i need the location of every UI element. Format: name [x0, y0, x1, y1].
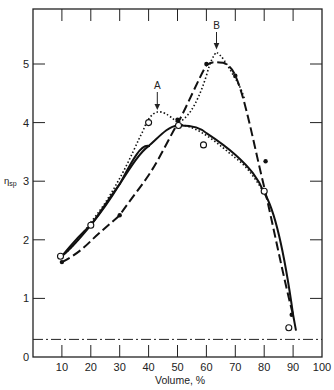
- y-tick-label: 1: [23, 292, 29, 304]
- y-tick-labels: 0 1 2 3 4 5: [23, 58, 29, 363]
- y-tick-label: 3: [23, 175, 29, 187]
- open-circle-marker: [201, 142, 207, 148]
- x-tick-label: 90: [287, 361, 299, 373]
- x-tick-labels: 10 20 30 40 50 60 70 80 90 100: [56, 361, 331, 373]
- filled-circle-marker: [60, 260, 64, 264]
- filled-circle-marker: [175, 118, 179, 122]
- y-axis-title-sub: sp: [9, 180, 17, 188]
- filled-circle-marker: [118, 213, 122, 217]
- x-axis-title: Volume, %: [155, 374, 205, 386]
- filled-circle-markers: [60, 62, 294, 317]
- open-circle-marker: [286, 325, 292, 331]
- x-tick-label: 30: [114, 361, 126, 373]
- y-axis-title: ηsp: [4, 175, 17, 188]
- y-tick-label: 2: [23, 234, 29, 246]
- x-ticks-bottom: [62, 345, 293, 357]
- annotation-b-label: B: [213, 20, 220, 31]
- filled-circle-marker: [290, 313, 294, 317]
- y-tick-label: 4: [23, 117, 29, 129]
- chart: 0 1 2 3 4 5 10 20 30 40 50 60 70 80 90 1…: [0, 0, 334, 390]
- x-tick-label: 60: [200, 361, 212, 373]
- x-tick-label: 100: [313, 361, 331, 373]
- open-circle-marker: [176, 123, 182, 129]
- x-tick-label: 80: [258, 361, 270, 373]
- x-tick-label: 50: [171, 361, 183, 373]
- filled-circle-marker: [263, 159, 267, 163]
- arrow-down-icon: [214, 32, 220, 50]
- x-tick-label: 20: [85, 361, 97, 373]
- annotation-a-label: A: [154, 80, 161, 91]
- open-circle-markers: [58, 120, 292, 331]
- x-tick-label: 70: [229, 361, 241, 373]
- arrow-down-icon: [155, 92, 161, 110]
- y-ticks-right: [310, 64, 322, 298]
- open-circle-marker: [58, 253, 64, 259]
- filled-circle-marker: [233, 74, 237, 78]
- open-circle-marker: [146, 120, 152, 126]
- y-tick-label: 5: [23, 58, 29, 70]
- solid-curve-main: [62, 125, 296, 330]
- x-tick-label: 10: [56, 361, 68, 373]
- filled-circle-marker: [204, 62, 208, 66]
- dashed-curve: [62, 62, 293, 315]
- y-ticks-left: [33, 64, 45, 298]
- open-circle-marker: [88, 222, 94, 228]
- open-circle-marker: [261, 188, 267, 194]
- plot-frame: [33, 9, 322, 357]
- x-tick-label: 40: [142, 361, 154, 373]
- y-tick-label: 0: [23, 351, 29, 363]
- x-ticks-top: [62, 9, 293, 21]
